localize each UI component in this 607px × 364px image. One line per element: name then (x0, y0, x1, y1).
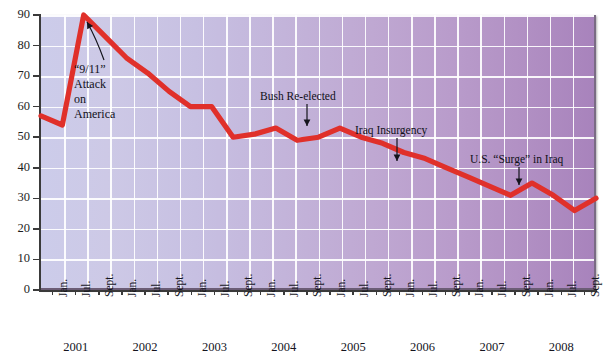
year-label: 2008 (531, 340, 591, 355)
x-tick-mark (561, 290, 563, 295)
gridline-vertical (110, 15, 112, 288)
gridlines (41, 15, 594, 288)
gridline-vertical (295, 15, 297, 288)
year-label: 2001 (46, 340, 106, 355)
x-tick-label: Jul. (566, 281, 578, 297)
y-tick-label: 50 (2, 129, 30, 144)
x-tick-mark (422, 290, 424, 295)
x-tick-mark (514, 290, 516, 295)
gridline-horizontal (41, 168, 594, 170)
x-tick-label: Sept. (589, 274, 601, 297)
approval-rating-line-chart: 0102030405060708090 Jan.Jul.Sept.Jan.Jul… (0, 0, 607, 364)
gridline-vertical (480, 15, 482, 288)
y-axis-line (39, 14, 41, 292)
y-tick-label: 70 (2, 68, 30, 83)
annotation-line: America (74, 107, 138, 122)
x-tick-mark (329, 290, 331, 295)
gridline-vertical (411, 15, 413, 288)
x-tick-label: Sept. (520, 274, 532, 297)
y-tick-label: 0 (2, 282, 30, 297)
annotation-nine-eleven: “9/11”AttackonAmerica (74, 62, 138, 122)
year-label: 2002 (115, 340, 175, 355)
x-tick-mark (121, 290, 123, 295)
x-tick-label: Jul. (80, 281, 92, 297)
gridline-vertical (388, 15, 390, 288)
gridline-vertical (157, 15, 159, 288)
gridline-horizontal (41, 198, 594, 200)
y-tick-label: 90 (2, 7, 30, 22)
annotation-line: Attack (74, 77, 138, 92)
gridline-horizontal (41, 46, 594, 48)
gridline-vertical (457, 15, 459, 288)
gridline-vertical (319, 15, 321, 288)
x-tick-label: Sept. (103, 274, 115, 297)
gridline-vertical (504, 15, 506, 288)
gridline-vertical (342, 15, 344, 288)
x-tick-mark (468, 290, 470, 295)
gridline-vertical (550, 15, 552, 288)
x-tick-mark (167, 290, 169, 295)
gridline-horizontal (41, 229, 594, 231)
x-tick-mark (491, 290, 493, 295)
x-tick-label: Sept. (173, 274, 185, 297)
y-tick-label: 20 (2, 221, 30, 236)
gridline-horizontal (41, 259, 594, 261)
annotation-iraq-insurgency: Iraq Insurgency (355, 124, 427, 138)
y-tick-label: 10 (2, 251, 30, 266)
gridline-vertical (365, 15, 367, 288)
x-tick-mark (52, 290, 54, 295)
x-tick-label: Jan. (543, 279, 555, 297)
annotation-bush-reelected: Bush Re-elected (260, 90, 336, 104)
y-tick-mark (33, 198, 39, 200)
gridline-horizontal (41, 137, 594, 139)
x-tick-label: Jul. (288, 281, 300, 297)
y-tick-mark (33, 45, 39, 47)
x-tick-mark (283, 290, 285, 295)
y-tick-mark (33, 14, 39, 16)
x-tick-label: Jan. (57, 279, 69, 297)
annotation-us-surge: U.S. “Surge” in Iraq (470, 153, 563, 167)
year-label: 2004 (254, 340, 314, 355)
x-tick-label: Jan. (404, 279, 416, 297)
x-tick-label: Jan. (126, 279, 138, 297)
y-tick-mark (33, 106, 39, 108)
gridline-vertical (134, 15, 136, 288)
x-tick-mark (376, 290, 378, 295)
x-tick-mark (445, 290, 447, 295)
year-label: 2006 (393, 340, 453, 355)
x-tick-label: Jan. (196, 279, 208, 297)
gridline-vertical (226, 15, 228, 288)
y-tick-mark (33, 167, 39, 169)
x-tick-label: Jan. (265, 279, 277, 297)
gridline-vertical (203, 15, 205, 288)
gridline-vertical (64, 15, 66, 288)
y-tick-mark (33, 136, 39, 138)
x-tick-mark (191, 290, 193, 295)
gridline-horizontal (41, 15, 594, 17)
gridline-vertical (527, 15, 529, 288)
x-tick-label: Sept. (381, 274, 393, 297)
gridline-vertical (180, 15, 182, 288)
x-tick-label: Sept. (311, 274, 323, 297)
gridline-vertical (87, 15, 89, 288)
gridline-vertical (249, 15, 251, 288)
x-tick-label: Sept. (450, 274, 462, 297)
y-tick-label: 40 (2, 160, 30, 175)
x-tick-mark (214, 290, 216, 295)
x-tick-label: Jul. (358, 281, 370, 297)
annotation-line: “9/11” (74, 62, 138, 77)
x-tick-label: Jul. (150, 281, 162, 297)
x-tick-mark (98, 290, 100, 295)
y-tick-mark (33, 259, 39, 261)
y-tick-label: 60 (2, 99, 30, 114)
x-tick-mark (260, 290, 262, 295)
y-tick-label: 30 (2, 190, 30, 205)
year-label: 2005 (323, 340, 383, 355)
x-tick-label: Jul. (427, 281, 439, 297)
y-tick-label: 80 (2, 38, 30, 53)
x-tick-mark (237, 290, 239, 295)
annotation-line: on (74, 92, 138, 107)
x-tick-label: Jul. (219, 281, 231, 297)
gridline-vertical (272, 15, 274, 288)
x-tick-mark (537, 290, 539, 295)
